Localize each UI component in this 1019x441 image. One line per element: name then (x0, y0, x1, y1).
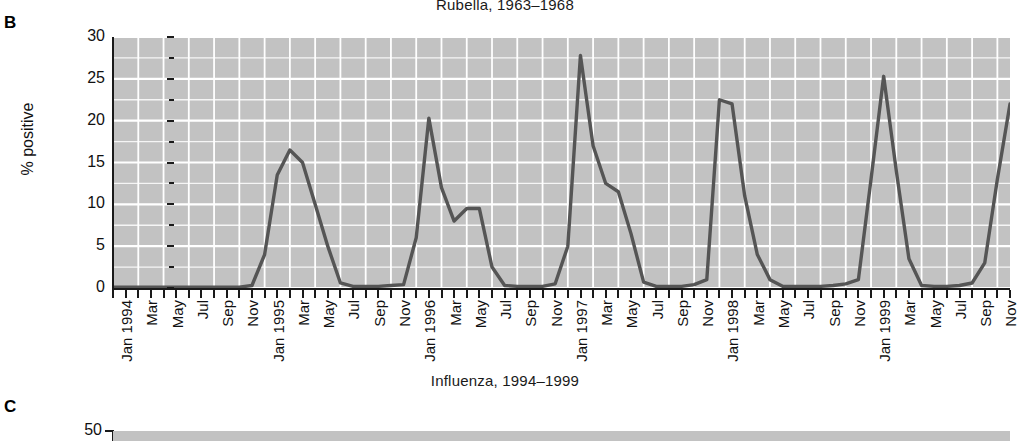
x-axis-tick-mark (832, 290, 834, 298)
x-axis-tick-label: Jan 1999 (877, 300, 892, 362)
panel-letter-c: C (4, 398, 16, 415)
x-axis-tick-mark (529, 290, 531, 298)
x-axis-tick-label: Mar (448, 300, 463, 326)
x-axis-tick-mark (327, 290, 329, 298)
y-axis-tick-mark (167, 36, 174, 38)
x-axis-tick-label: Jan 1995 (271, 300, 286, 362)
y-axis-tick-mark (167, 287, 174, 289)
x-axis-tick-label: May (170, 300, 185, 328)
x-axis-tick-mark (226, 290, 228, 298)
x-axis-tick-mark (984, 290, 986, 298)
x-axis-tick-mark (655, 290, 657, 298)
x-axis-tick-label: Jul (498, 300, 513, 319)
x-axis-tick-mark (365, 290, 367, 298)
x-axis-tick-mark (137, 290, 139, 298)
x-axis-tick-mark (339, 290, 341, 298)
x-axis-tick-label: Nov (397, 300, 412, 327)
x-axis-tick-mark (403, 290, 405, 298)
y-axis-tick-label: 5 (71, 237, 105, 253)
data-line-series (113, 37, 1010, 288)
x-axis-tick-mark (845, 290, 847, 298)
x-axis-tick-label: Nov (700, 300, 715, 327)
x-axis-tick-mark (466, 290, 468, 298)
chart-title-rubella: Rubella, 1963–1968 (0, 0, 1010, 13)
x-axis-tick-label: Jan 1994 (119, 300, 134, 362)
x-axis-tick-mark (302, 290, 304, 298)
x-axis-tick-mark (794, 290, 796, 298)
y-axis-tick-mark (169, 182, 174, 184)
x-axis-tick-mark (478, 290, 480, 298)
x-axis-tick-label: Nov (1003, 300, 1018, 327)
x-axis-tick-label: Nov (852, 300, 867, 327)
x-axis-tick-label: Nov (245, 300, 260, 327)
panel-b-rubella-chart: B Rubella, 1963–1968 051015202530 % posi… (0, 0, 1010, 370)
y-axis-tick-label: 20 (71, 112, 105, 128)
x-axis-tick-mark (415, 290, 417, 298)
x-axis-tick-label: Sep (523, 300, 538, 327)
y-axis-tick-label: 15 (71, 154, 105, 170)
x-axis-tick-label: Mar (599, 300, 614, 326)
x-axis-tick-label: Jul (801, 300, 816, 319)
x-axis-tick-mark (352, 290, 354, 298)
x-axis-tick-label: Sep (978, 300, 993, 327)
x-axis-tick-mark (630, 290, 632, 298)
x-axis-tick-label: Jan 1996 (422, 300, 437, 362)
y-axis-tick-mark (169, 224, 174, 226)
y-axis-tick-mark (167, 162, 174, 164)
x-axis-tick-mark (807, 290, 809, 298)
x-axis-tick-mark (428, 290, 430, 298)
x-axis-tick-mark (681, 290, 683, 298)
x-axis-tick-label: Sep (372, 300, 387, 327)
x-axis-tick-label: May (624, 300, 639, 328)
x-axis-tick-mark (491, 290, 493, 298)
x-axis-tick-mark (175, 290, 177, 298)
x-axis-tick-mark (693, 290, 695, 298)
y-axis-tick-label: 30 (71, 28, 105, 44)
x-axis-tick-mark (542, 290, 544, 298)
x-axis-tick-label: Jul (953, 300, 968, 319)
x-axis-tick-mark (592, 290, 594, 298)
x-axis-tick-label: Sep (827, 300, 842, 327)
x-axis-tick-mark (605, 290, 607, 298)
x-axis-tick-mark (567, 290, 569, 298)
x-axis-tick-mark (251, 290, 253, 298)
x-axis-tick-mark (377, 290, 379, 298)
x-axis-tick-label: Mar (144, 300, 159, 326)
x-axis-tick-mark (453, 290, 455, 298)
x-axis-tick-label: May (473, 300, 488, 328)
x-axis-tick-mark (125, 290, 127, 298)
x-axis-tick-label: Sep (675, 300, 690, 327)
x-axis-tick-mark (390, 290, 392, 298)
y-axis-title: % positive (19, 69, 37, 209)
x-axis-tick-label: May (321, 300, 336, 328)
y-axis-tick-mark (167, 203, 174, 205)
x-axis-tick-mark (756, 290, 758, 298)
x-axis-tick-label: May (928, 300, 943, 328)
plot-area (113, 37, 1010, 288)
y-axis-tick-mark (167, 78, 174, 80)
x-axis-tick-mark (643, 290, 645, 298)
x-axis-tick-mark (857, 290, 859, 298)
x-axis-tick-mark (264, 290, 266, 298)
x-axis-tick-mark (718, 290, 720, 298)
x-axis-tick-mark (971, 290, 973, 298)
x-axis-tick-mark (516, 290, 518, 298)
y-axis-tick-group: 051015202530 (60, 0, 105, 370)
x-axis-tick-label: Nov (549, 300, 564, 327)
x-axis-tick-mark (200, 290, 202, 298)
x-axis-tick-mark (820, 290, 822, 298)
y-axis-tick-label: 0 (71, 279, 105, 295)
x-axis-tick-label: Jul (650, 300, 665, 319)
y-axis-tick-label-50: 50 (68, 422, 102, 438)
x-axis-tick-label: Sep (220, 300, 235, 327)
y-axis-tick-mark (169, 99, 174, 101)
x-axis-tick-label: Mar (902, 300, 917, 326)
panel-letter-b: B (4, 14, 16, 31)
chart-title-influenza: Influenza, 1994–1999 (0, 372, 1010, 389)
x-axis-tick-mark (883, 290, 885, 298)
x-axis-tick-mark (731, 290, 733, 298)
x-axis-tick-mark (504, 290, 506, 298)
x-axis-tick-label: Mar (751, 300, 766, 326)
x-axis-tick-label: Mar (296, 300, 311, 326)
x-axis-tick-mark (580, 290, 582, 298)
